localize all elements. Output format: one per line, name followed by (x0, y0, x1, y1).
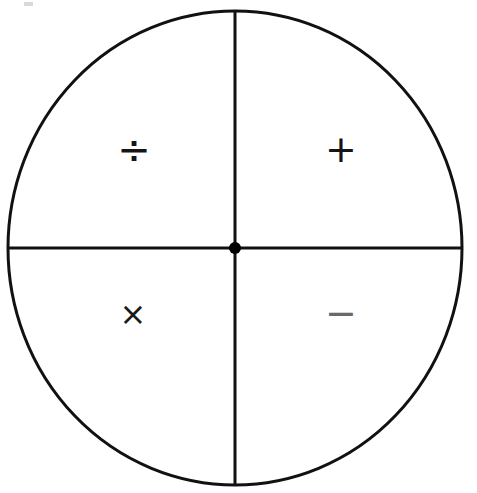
multiplication-sign-icon: × (103, 298, 163, 330)
plus-sign-icon: + (311, 130, 371, 168)
scan-artifact-mark (24, 2, 33, 6)
quadrant-operator-diagram: ÷ + × − (0, 0, 477, 493)
division-sign-icon: ÷ (104, 129, 164, 169)
center-dot-icon (229, 242, 241, 254)
diagram-canvas (0, 0, 477, 493)
minus-sign-icon: − (311, 294, 371, 332)
